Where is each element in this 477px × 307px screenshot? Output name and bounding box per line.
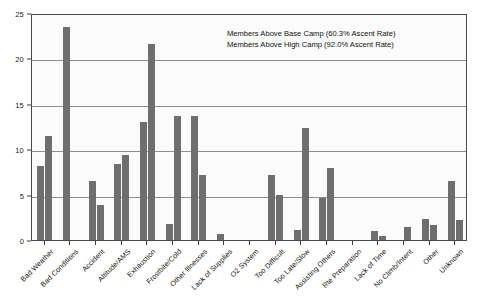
x-tick-mark	[249, 241, 250, 245]
x-tick-mark	[146, 241, 147, 245]
y-tick-label: 15	[15, 100, 24, 109]
x-tick-mark	[377, 241, 378, 245]
bar	[422, 219, 429, 240]
x-tick-mark	[429, 241, 430, 245]
bar	[448, 181, 455, 240]
bar	[302, 128, 309, 240]
bar	[294, 230, 301, 240]
bar	[404, 227, 411, 240]
bar	[319, 198, 326, 240]
bar	[268, 175, 275, 240]
bar	[148, 44, 155, 240]
bar	[45, 136, 52, 240]
x-axis: Bad WeatherBad ConditionsAccidentAltitud…	[31, 241, 467, 307]
x-tick-mark	[223, 241, 224, 245]
y-tick-label: 25	[15, 10, 24, 19]
bar	[122, 155, 129, 240]
bar	[89, 181, 96, 240]
bar	[37, 166, 44, 240]
bar	[174, 116, 181, 240]
legend-entry-base-camp: Members Above Base Camp (60.3% Ascent Ra…	[227, 28, 395, 39]
bar	[199, 175, 206, 240]
x-tick-mark	[172, 241, 173, 245]
x-tick-mark	[95, 241, 96, 245]
chart-legend: Members Above Base Camp (60.3% Ascent Ra…	[227, 28, 395, 50]
x-tick-mark	[121, 241, 122, 245]
bar	[379, 236, 386, 240]
bar	[140, 122, 147, 240]
bar	[430, 225, 437, 240]
bar	[191, 116, 198, 240]
x-tick-mark	[69, 241, 70, 245]
bar	[166, 224, 173, 240]
x-tick-mark	[326, 241, 327, 245]
x-tick-mark	[403, 241, 404, 245]
legend-entry-high-camp: Members Above High Camp (92.0% Ascent Ra…	[227, 39, 395, 50]
x-tick-label: Other	[420, 247, 439, 266]
y-tick-label: 5	[20, 191, 24, 200]
bar	[456, 220, 463, 240]
x-tick-mark	[454, 241, 455, 245]
x-tick-label: Unknown	[437, 247, 465, 275]
y-tick-label: 0	[20, 237, 24, 246]
y-tick-label: 10	[15, 146, 24, 155]
bar	[97, 205, 104, 240]
x-tick-mark	[352, 241, 353, 245]
bar	[114, 164, 121, 240]
bar	[217, 234, 224, 240]
x-tick-mark	[44, 241, 45, 245]
x-tick-mark	[198, 241, 199, 245]
bar	[327, 168, 334, 240]
bar-chart-figure: 0510152025 Bad WeatherBad ConditionsAcci…	[0, 0, 477, 307]
bar	[371, 231, 378, 240]
x-tick-mark	[275, 241, 276, 245]
y-tick-label: 20	[15, 55, 24, 64]
bar	[63, 27, 70, 240]
y-axis: 0510152025	[0, 0, 31, 241]
x-tick-mark	[300, 241, 301, 245]
bar	[276, 195, 283, 240]
